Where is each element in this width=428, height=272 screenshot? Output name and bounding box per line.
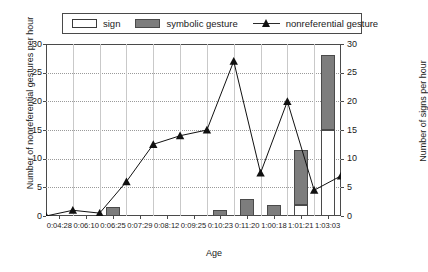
- data-point-marker-triangle: [122, 177, 130, 185]
- data-point-marker-triangle: [203, 126, 211, 134]
- y-axis-right-tick-label: 30: [347, 40, 369, 49]
- y-axis-right-tick-mark: [341, 130, 344, 131]
- legend-label-symbolic-gesture: symbolic gesture: [166, 19, 237, 29]
- line-series-layer: [46, 44, 341, 216]
- data-point-marker-triangle: [283, 97, 291, 105]
- y-axis-left-tick-mark: [43, 187, 46, 188]
- y-axis-right-tick-mark: [341, 159, 344, 160]
- data-point-marker-triangle: [69, 206, 77, 214]
- y-axis-right-tick-label: 20: [347, 97, 369, 106]
- x-axis-tick-mark: [220, 216, 221, 219]
- y-axis-right-tick-mark: [341, 44, 344, 45]
- y-axis-right-tick-mark: [341, 101, 344, 102]
- x-axis-tick-mark: [301, 216, 302, 219]
- y-axis-left-tick-mark: [43, 216, 46, 217]
- x-axis-tick-mark: [167, 216, 168, 219]
- y-axis-right-tick-mark: [341, 216, 344, 217]
- x-axis-tick-mark: [59, 216, 60, 219]
- x-axis-tick-mark: [194, 216, 195, 219]
- y-axis-left-tick-label: 20: [20, 97, 42, 106]
- y-axis-left-tick-mark: [43, 101, 46, 102]
- x-axis-tick-label: 1:03:03: [311, 222, 345, 230]
- y-axis-left-tick-mark: [43, 44, 46, 45]
- x-axis-tick-mark: [328, 216, 329, 219]
- x-axis-title: Age: [0, 248, 428, 258]
- y-axis-left-tick-mark: [43, 159, 46, 160]
- legend-item-symbolic-gesture: symbolic gesture: [135, 19, 237, 29]
- chart-legend: sign symbolic gesture nonreferential ges…: [62, 13, 362, 34]
- y-axis-right-tick-mark: [341, 187, 344, 188]
- y-axis-right-title: Number of signs per hour: [418, 16, 428, 206]
- y-axis-left-tick-label: 5: [20, 183, 42, 192]
- y-axis-right-tick-label: 0: [347, 212, 369, 221]
- legend-item-nonreferential-gesture: nonreferential gesture: [253, 19, 378, 29]
- x-axis-tick-mark: [86, 216, 87, 219]
- x-axis-tick-mark: [140, 216, 141, 219]
- line-triangle-marker-icon: [253, 19, 280, 28]
- x-axis-tick-mark: [113, 216, 114, 219]
- y-axis-left-tick-label: 0: [20, 212, 42, 221]
- y-axis-left-tick-label: 25: [20, 68, 42, 77]
- y-axis-left-tick-label: 10: [20, 154, 42, 163]
- data-point-marker-triangle: [310, 186, 318, 194]
- x-axis-tick-mark: [247, 216, 248, 219]
- data-point-marker-triangle: [149, 140, 157, 148]
- y-axis-left-tick-mark: [43, 73, 46, 74]
- data-point-marker-triangle: [337, 172, 341, 180]
- y-axis-right-tick-label: 5: [347, 183, 369, 192]
- sign-swatch-icon: [72, 19, 97, 28]
- symbolic-gesture-swatch-icon: [135, 19, 160, 28]
- y-axis-right-tick-mark: [341, 73, 344, 74]
- plot-area: [46, 44, 341, 216]
- legend-item-sign: sign: [72, 19, 120, 29]
- legend-label-sign: sign: [103, 19, 120, 29]
- x-axis-tick-mark: [274, 216, 275, 219]
- y-axis-left-tick-label: 15: [20, 126, 42, 135]
- y-axis-left-tick-label: 30: [20, 40, 42, 49]
- y-axis-left-tick-mark: [43, 130, 46, 131]
- y-axis-right-tick-label: 25: [347, 68, 369, 77]
- data-point-marker-triangle: [256, 169, 264, 177]
- legend-label-nonreferential-gesture: nonreferential gesture: [286, 19, 378, 29]
- y-axis-right-tick-label: 10: [347, 154, 369, 163]
- y-axis-right-tick-label: 15: [347, 126, 369, 135]
- chart-figure: sign symbolic gesture nonreferential ges…: [0, 0, 428, 272]
- nonreferential-gesture-line: [46, 61, 341, 216]
- data-point-marker-triangle: [230, 57, 238, 65]
